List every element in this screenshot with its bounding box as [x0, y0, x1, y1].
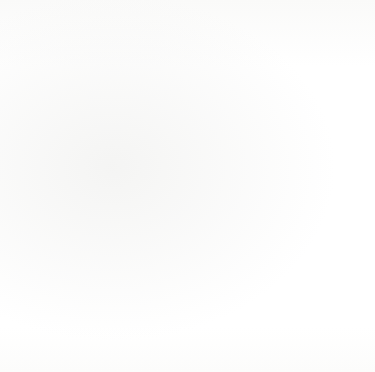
- scatter-plot: [0, 0, 375, 372]
- x-tick-label: 0: [88, 319, 94, 331]
- y-tick-label: 8: [47, 225, 69, 237]
- x-axis-label: Siblings: [0, 345, 375, 357]
- x-tick-label: 8: [189, 319, 195, 331]
- y-tick-label: 16: [47, 161, 69, 173]
- x-tick-label: 20: [337, 319, 349, 331]
- y-axis-label: Squared Residuals: [8, 12, 20, 112]
- y-tick-label: 24: [47, 97, 69, 109]
- x-tick-label: 4: [138, 319, 144, 331]
- chart-title: Plot of Squared Residuals and Siblings: [79, 0, 297, 3]
- x-tick-label: 16: [286, 319, 298, 331]
- chart-title-clip: Plot of Squared Residuals and Siblings: [0, 0, 375, 9]
- y-tick-label: 0: [47, 290, 69, 302]
- y-tick-label: 32: [47, 33, 69, 45]
- x-tick-label: 12: [236, 319, 248, 331]
- data-points: [91, 41, 340, 299]
